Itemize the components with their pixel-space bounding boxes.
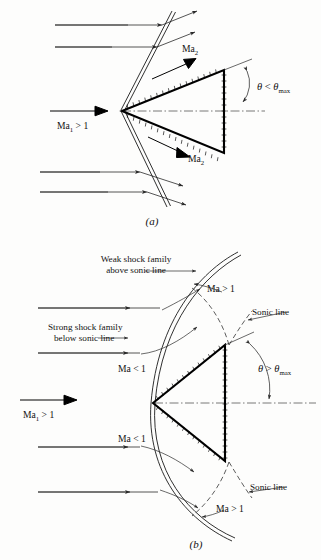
label-downstream-mach-lower-a: Ma2 bbox=[188, 153, 205, 166]
label-weak-family-line1-b: Weak shock family bbox=[101, 254, 172, 264]
label-sonic-line-upper-b: Sonic line bbox=[252, 307, 289, 317]
label-strong-family-line1-b: Strong shock family bbox=[48, 322, 123, 332]
label-mach-subsonic-upper-b: Ma < 1 bbox=[118, 363, 146, 374]
label-mach-supersonic-lower-b: Ma > 1 bbox=[216, 503, 244, 514]
wedge-hatching-lower-a bbox=[127, 114, 218, 161]
panel-b: Weak shock family above sonic line Stron… bbox=[20, 252, 316, 551]
label-angle-b: θ > θmax bbox=[258, 363, 292, 376]
figure-canvas: Ma1 > 1 Ma2 Ma2 θ < θmax (a) bbox=[0, 0, 321, 560]
bow-shock-b bbox=[151, 252, 241, 541]
label-angle-a: θ < θmax bbox=[257, 81, 291, 94]
deflected-streamlines-a-bottom bbox=[140, 172, 186, 205]
label-mach-supersonic-upper-b: Ma > 1 bbox=[207, 283, 235, 294]
wedge-body-a bbox=[122, 69, 226, 161]
upstream-velocity-arrow-b bbox=[20, 395, 77, 405]
upstream-velocity-arrow-a bbox=[50, 106, 108, 116]
label-mach-subsonic-lower-b: Ma < 1 bbox=[118, 433, 146, 444]
upstream-streamlines-a-top bbox=[55, 25, 162, 47]
label-upstream-mach-a: Ma1 > 1 bbox=[57, 120, 88, 133]
panel-tag-b: (b) bbox=[190, 538, 203, 551]
panel-tag-a: (a) bbox=[146, 215, 159, 228]
downstream-velocity-arrow-upper-a bbox=[152, 59, 196, 80]
panel-a: Ma1 > 1 Ma2 Ma2 θ < θmax (a) bbox=[40, 11, 291, 228]
label-weak-family-line2-b: above sonic line bbox=[106, 265, 166, 275]
angle-construction-a bbox=[224, 59, 252, 102]
oblique-shock-upper-a bbox=[121, 11, 176, 111]
postshock-streamlines-b bbox=[141, 289, 200, 508]
label-downstream-mach-upper-a: Ma2 bbox=[182, 43, 199, 56]
flow-arrows-a bbox=[50, 59, 196, 158]
figure-root: Ma1 > 1 Ma2 Ma2 θ < θmax (a) bbox=[0, 0, 321, 560]
label-strong-family-line2-b: below sonic line bbox=[54, 333, 114, 343]
sonic-line-upper-b bbox=[192, 288, 252, 345]
downstream-velocity-arrow-lower-a bbox=[148, 137, 190, 158]
label-sonic-line-lower-b: Sonic line bbox=[250, 482, 287, 492]
upstream-streamlines-a-bottom bbox=[40, 172, 147, 192]
label-upstream-mach-b: Ma1 > 1 bbox=[23, 409, 54, 422]
